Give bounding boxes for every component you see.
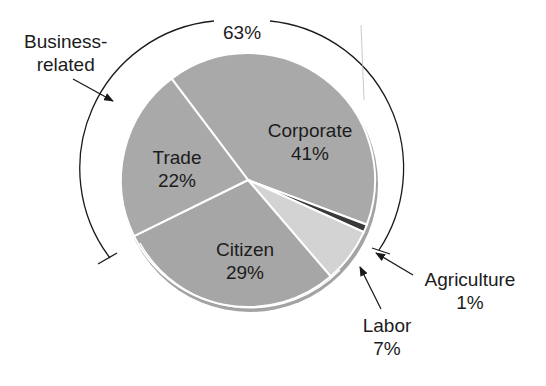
label-corporate: Corporate 41% (250, 119, 370, 165)
labor-arrow (360, 267, 381, 309)
label-business-pct: 63% (220, 21, 264, 44)
label-labor: Labor 7% (352, 314, 422, 360)
label-business-related: Business- related (24, 30, 107, 76)
agriculture-arrow (376, 253, 413, 275)
scan-artifact-line (361, 25, 364, 100)
label-citizen: Citizen 29% (200, 238, 290, 284)
label-agriculture: Agriculture 1% (415, 268, 525, 314)
label-trade: Trade 22% (142, 146, 212, 192)
